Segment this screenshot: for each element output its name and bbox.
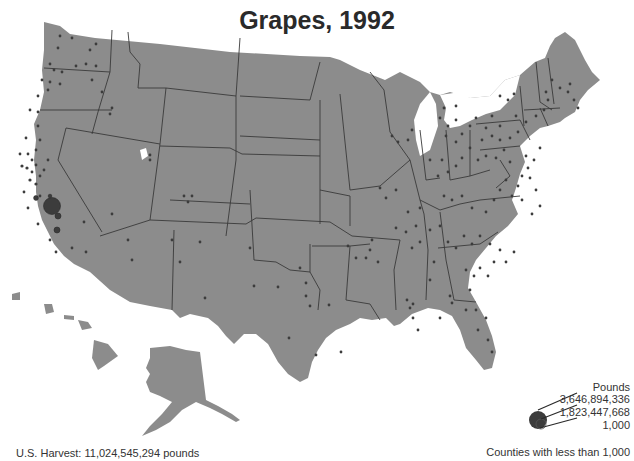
hawaii-kauai [12, 292, 20, 300]
hawaii-maui [78, 320, 92, 330]
total-harvest-label: U.S. Harvest: 11,024,545,294 pounds [16, 447, 199, 459]
contiguous-us-landmass [34, 22, 600, 382]
us-map [0, 0, 634, 461]
hawaii-molokai [64, 315, 74, 320]
hawaii-big-island [92, 340, 118, 370]
legend-value-min: 1,000 [602, 419, 630, 431]
legend-value-mid: 1,823,447,668 [560, 406, 630, 418]
legend-value-max: 3,646,894,336 [560, 393, 630, 405]
legend-title: Pounds [593, 381, 630, 393]
hawaii-oahu [44, 304, 54, 314]
legend-note: Counties with less than 1,000 [486, 446, 630, 458]
alaska [142, 346, 240, 436]
